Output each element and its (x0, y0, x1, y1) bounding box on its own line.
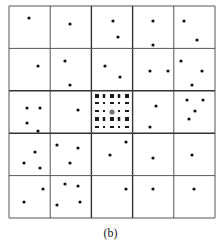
lattice-mark (118, 94, 121, 98)
grid-figure (0, 0, 221, 225)
data-dot (124, 140, 127, 143)
data-dot (151, 156, 154, 159)
data-dot (151, 19, 154, 22)
data-dot (68, 161, 71, 164)
data-dot (111, 19, 114, 22)
lattice-mark (95, 102, 99, 104)
data-dot (190, 83, 193, 86)
lattice-mark (110, 102, 114, 104)
lattice-mark (110, 117, 114, 121)
data-dot (192, 187, 195, 190)
data-dot (151, 187, 154, 190)
figure-caption: (b) (0, 226, 221, 240)
data-dot (190, 153, 193, 156)
data-dot (166, 69, 169, 72)
data-dot (76, 108, 79, 111)
lattice-mark (118, 102, 120, 104)
data-dot (78, 200, 81, 203)
lattice-mark (103, 110, 105, 112)
data-dot (25, 106, 28, 109)
data-dot (33, 150, 36, 153)
data-dot (148, 69, 151, 72)
center-cell-lattice (95, 94, 129, 128)
lattice-mark (95, 117, 99, 121)
lattice-mark (103, 117, 106, 121)
data-dot (38, 166, 41, 169)
lattice-mark (125, 117, 129, 121)
data-dot (25, 121, 28, 124)
data-dot (36, 64, 39, 67)
lattice-mark (118, 126, 120, 128)
data-dot (124, 187, 127, 190)
lattice-mark (95, 110, 99, 112)
data-dot (200, 69, 203, 72)
data-dot (118, 75, 121, 78)
lattice-mark (95, 94, 99, 98)
data-dot (76, 184, 79, 187)
lattice-mark (118, 110, 120, 112)
data-dot (108, 153, 111, 156)
data-dot (151, 43, 154, 46)
data-dot (36, 129, 39, 132)
data-dot (182, 19, 185, 22)
data-dot (116, 35, 119, 38)
data-dot (195, 38, 198, 41)
data-dot (201, 98, 204, 101)
data-dot (41, 187, 44, 190)
lattice-mark (110, 126, 114, 128)
data-dot (27, 16, 30, 19)
data-dot (193, 109, 196, 112)
data-dot (63, 182, 66, 185)
data-dot (154, 104, 157, 107)
lattice-mark (95, 126, 99, 128)
data-dot (38, 106, 41, 109)
data-dot (187, 117, 190, 120)
data-dot (22, 200, 25, 203)
lattice-mark (125, 102, 129, 104)
data-dot (185, 98, 188, 101)
data-dot (68, 83, 71, 86)
data-dot (76, 146, 79, 149)
data-dot (22, 161, 25, 164)
data-dot (103, 64, 106, 67)
data-dot (63, 59, 66, 62)
center-dot (109, 109, 114, 114)
data-dot (68, 22, 71, 25)
data-dot (148, 125, 151, 128)
data-dot (55, 203, 58, 206)
lattice-mark (110, 94, 114, 98)
lattice-mark (118, 117, 121, 121)
lattice-mark (125, 126, 129, 128)
lattice-mark (103, 102, 105, 104)
data-dot (55, 143, 58, 146)
lattice-mark (103, 126, 105, 128)
data-dot (179, 59, 182, 62)
lattice-mark (125, 94, 129, 98)
lattice-mark (103, 94, 106, 98)
lattice-mark (125, 110, 129, 112)
